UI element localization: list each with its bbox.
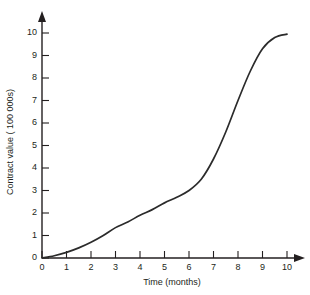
x-tick-label: 3 <box>113 262 118 272</box>
y-axis-tick-labels: 0 1 2 3 4 5 6 7 8 9 10 <box>27 27 37 262</box>
y-axis-title: Contract value ( 100 000s) <box>5 89 15 195</box>
y-tick-label: 1 <box>32 230 37 240</box>
y-tick-label: 0 <box>32 252 37 262</box>
y-axis-ticks <box>42 33 49 258</box>
x-tick-label: 8 <box>235 262 240 272</box>
y-tick-label: 2 <box>32 207 37 217</box>
y-tick-label: 6 <box>32 117 37 127</box>
y-tick-label: 3 <box>32 185 37 195</box>
x-tick-label: 1 <box>64 262 69 272</box>
x-tick-label: 6 <box>186 262 191 272</box>
data-series-line <box>42 34 287 258</box>
x-tick-label: 10 <box>282 262 292 272</box>
x-axis-tick-labels: 0 1 2 3 4 5 6 7 8 9 10 <box>39 262 292 272</box>
y-tick-label: 5 <box>32 140 37 150</box>
x-tick-label: 5 <box>162 262 167 272</box>
x-tick-label: 9 <box>260 262 265 272</box>
y-tick-label: 8 <box>32 72 37 82</box>
x-axis-title: Time (months) <box>143 277 201 287</box>
x-tick-label: 7 <box>211 262 216 272</box>
chart-container: 0 1 2 3 4 5 6 7 8 9 10 0 <box>0 0 310 295</box>
line-chart: 0 1 2 3 4 5 6 7 8 9 10 0 <box>0 0 310 295</box>
y-tick-label: 9 <box>32 50 37 60</box>
x-tick-label: 4 <box>137 262 142 272</box>
y-tick-label: 10 <box>27 27 37 37</box>
y-tick-label: 7 <box>32 95 37 105</box>
x-axis-ticks <box>42 251 287 258</box>
arrow-right-icon <box>294 254 305 262</box>
x-tick-label: 0 <box>39 262 44 272</box>
x-tick-label: 2 <box>88 262 93 272</box>
y-tick-label: 4 <box>32 162 37 172</box>
arrow-up-icon <box>38 11 46 22</box>
